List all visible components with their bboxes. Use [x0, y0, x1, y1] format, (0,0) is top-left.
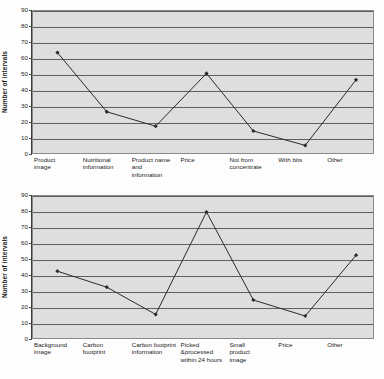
- series-line: [57, 212, 356, 316]
- y-axis-tick-label: 80: [8, 23, 28, 29]
- y-axis-spine: [31, 195, 32, 339]
- data-series: [33, 11, 374, 154]
- y-axis-tick-label: 40: [8, 87, 28, 93]
- y-axis-tick-label: 70: [8, 224, 28, 230]
- data-point-marker: [154, 312, 158, 316]
- y-axis-tick-label: 90: [8, 7, 28, 13]
- line-chart-top: Number of intervals 0102030405060708090 …: [0, 0, 384, 190]
- y-axis-tick-label: 10: [8, 320, 28, 326]
- y-axis-tick-label: 0: [8, 336, 28, 342]
- y-axis-tick-label: 30: [8, 103, 28, 109]
- data-point-marker: [105, 285, 109, 289]
- x-axis-category-label: Other: [327, 156, 384, 163]
- y-axis-title-bottom: Number of intervals: [1, 223, 15, 311]
- data-point-marker: [251, 298, 255, 302]
- series-line: [57, 53, 356, 146]
- data-point-marker: [204, 210, 208, 214]
- y-axis-tick-label: 50: [8, 71, 28, 77]
- y-axis-title-top: Number of intervals: [1, 38, 15, 126]
- y-axis-tick-label: 70: [8, 39, 28, 45]
- line-chart-bottom: Number of intervals 0102030405060708090 …: [0, 185, 384, 379]
- y-axis-tick-label: 40: [8, 272, 28, 278]
- y-axis-tick-label: 80: [8, 208, 28, 214]
- x-axis-category-label: Other: [327, 341, 384, 348]
- y-axis-tick-label: 30: [8, 288, 28, 294]
- data-series: [33, 196, 374, 339]
- y-axis-tick-label: 60: [8, 240, 28, 246]
- y-axis-spine: [31, 10, 32, 154]
- plot-area-top: [32, 10, 374, 154]
- y-axis-tick-label: 0: [8, 151, 28, 157]
- y-axis-tick-label: 90: [8, 192, 28, 198]
- y-axis-tick-label: 50: [8, 256, 28, 262]
- y-axis-tick-label: 60: [8, 55, 28, 61]
- data-point-marker: [55, 269, 59, 273]
- y-axis-tick-label: 10: [8, 135, 28, 141]
- plot-area-bottom: [32, 195, 374, 339]
- y-axis-tick-label: 20: [8, 119, 28, 125]
- chart-page: Number of intervals 0102030405060708090 …: [0, 0, 384, 379]
- y-axis-tick-label: 20: [8, 304, 28, 310]
